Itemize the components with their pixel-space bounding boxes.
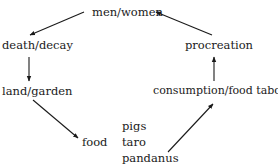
node-consumption-food-taboos: consumption/food taboos: [153, 84, 278, 98]
node-procreation: procreation: [185, 38, 253, 52]
arrow-procreation-to-men: [156, 12, 212, 35]
food-item-pandanus: pandanus: [122, 151, 179, 165]
food-item-taro: taro: [122, 135, 146, 149]
food-item-pigs: pigs: [122, 119, 146, 133]
arrow-land-to-food: [33, 100, 78, 138]
node-death-decay: death/decay: [2, 38, 73, 52]
node-men-women: men/women: [92, 5, 163, 19]
cycle-diagram: men/women death/decay procreation land/g…: [0, 0, 278, 167]
node-land-garden: land/garden: [2, 84, 72, 98]
node-food: food: [82, 135, 107, 149]
arrow-men-to-death: [30, 12, 84, 35]
arrow-pandanus-to-consumption: [168, 104, 213, 152]
